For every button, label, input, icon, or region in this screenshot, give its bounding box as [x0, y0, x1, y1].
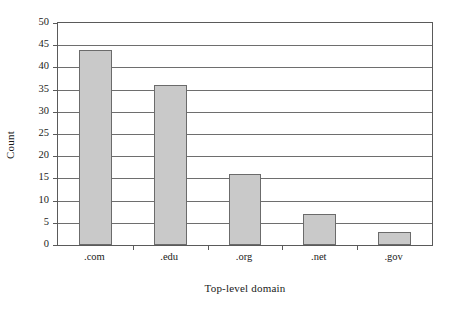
y-axis-tick-label: 15 [39, 172, 50, 183]
y-axis-tick-mark [53, 90, 58, 91]
x-axis-tick-label: .com [84, 252, 105, 263]
y-axis-title-text: Count [4, 131, 16, 159]
y-axis-tick-mark [53, 178, 58, 179]
y-axis-tick-mark [53, 67, 58, 68]
bar [79, 50, 112, 245]
x-axis-tick-mark [133, 245, 134, 250]
x-axis-tick-mark [357, 245, 358, 250]
bar [154, 85, 187, 245]
y-axis-tick-label: 0 [44, 239, 49, 250]
y-axis-tick-label: 30 [39, 106, 50, 117]
y-axis-tick-label: 5 [44, 217, 49, 228]
y-axis-tick-label: 45 [39, 39, 50, 50]
plot-area [57, 22, 433, 246]
bar [229, 174, 262, 245]
gridline [58, 90, 432, 91]
x-axis-tick-label: .org [236, 252, 252, 263]
y-axis-tick-mark [53, 156, 58, 157]
y-axis-tick-mark [53, 223, 58, 224]
gridline [58, 112, 432, 113]
bar-chart-figure: Count 05101520253035404550 .com.edu.org.… [0, 0, 451, 310]
gridline [58, 134, 432, 135]
y-axis-tick-label: 35 [39, 83, 50, 94]
x-axis-tick-labels: .com.edu.org.net.gov [57, 252, 433, 270]
y-axis-tick-mark [53, 23, 58, 24]
y-axis-tick-mark [53, 45, 58, 46]
x-axis-title: Top-level domain [57, 282, 433, 294]
bar [303, 214, 336, 245]
x-axis-tick-label: .net [311, 252, 326, 263]
y-axis-title: Count [0, 115, 20, 175]
y-axis-tick-label: 40 [39, 61, 50, 72]
y-axis-tick-label: 10 [39, 194, 50, 205]
x-axis-tick-mark [282, 245, 283, 250]
y-axis-tick-label: 50 [39, 17, 50, 28]
bar [378, 232, 411, 245]
gridline [58, 67, 432, 68]
x-axis-tick-mark [208, 245, 209, 250]
gridline [58, 156, 432, 157]
y-axis-tick-mark [53, 201, 58, 202]
gridline [58, 45, 432, 46]
y-axis-tick-mark [53, 245, 58, 246]
y-axis-tick-mark [53, 134, 58, 135]
y-axis-tick-label: 25 [39, 128, 50, 139]
x-axis-tick-label: .gov [384, 252, 402, 263]
y-axis-tick-label: 20 [39, 150, 50, 161]
x-axis-tick-label: .edu [160, 252, 178, 263]
y-axis-tick-mark [53, 112, 58, 113]
y-axis-tick-labels: 05101520253035404550 [24, 22, 53, 246]
